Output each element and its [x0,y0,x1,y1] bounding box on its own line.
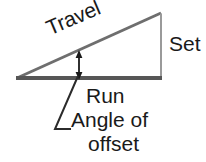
label-run: Run [86,85,125,106]
angle-double-arrow-icon [76,50,83,80]
label-offset: offset [88,133,139,154]
offset-bend-diagram: Travel Set Run Angle of offset [0,0,206,162]
label-angle-of: Angle of [71,109,148,130]
label-set: Set [169,33,201,54]
